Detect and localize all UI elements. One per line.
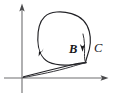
approach-trajectory-secondary [23,63,86,78]
flow-arrowhead-inner [80,44,85,52]
point-label-b: B [69,43,77,56]
closed-orbit-path [38,12,90,65]
axes-group [4,4,109,94]
point-label-c: C [94,42,102,55]
figure-root: B C [0,0,113,99]
flow-arrow-group [39,44,85,57]
trajectory-group [23,12,90,78]
